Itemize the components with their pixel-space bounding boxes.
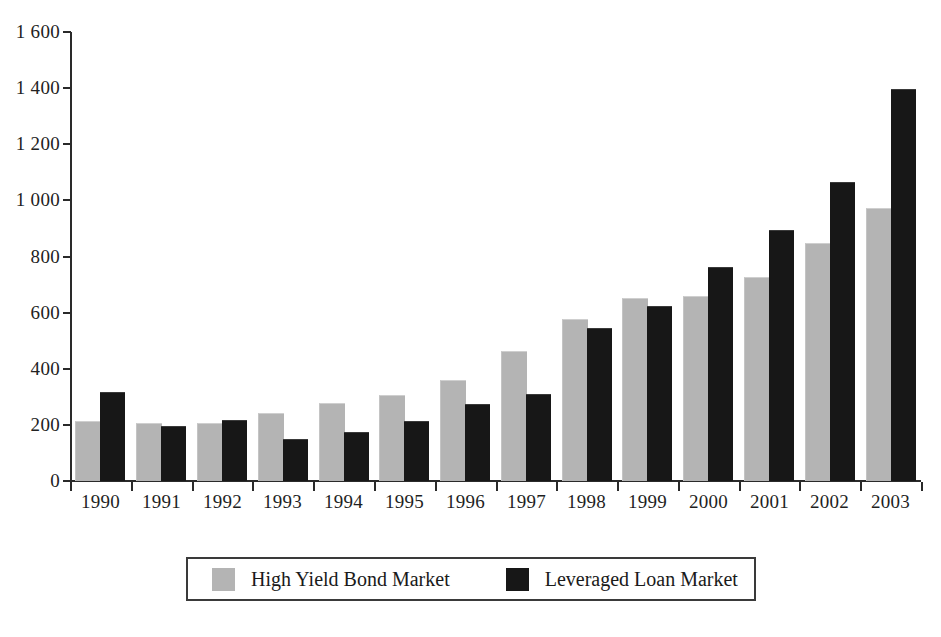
x-axis-tick [739, 482, 741, 491]
legend-label-leveraged-loan-market: Leveraged Loan Market [545, 569, 738, 589]
bar-1997-high-yield-bond-market [501, 351, 527, 481]
bar-1991-high-yield-bond-market [136, 423, 162, 481]
x-axis-tick-label-1990: 1990 [70, 492, 131, 512]
plot-area: 02004006008001 0001 2001 4001 600 199019… [0, 0, 941, 520]
x-axis-tick [192, 482, 194, 491]
bar-2003-high-yield-bond-market [866, 208, 892, 481]
bar-1999-leveraged-loan-market [647, 306, 672, 481]
x-axis-tick [252, 482, 254, 491]
bar-1999-high-yield-bond-market [622, 298, 648, 481]
bar-1990-leveraged-loan-market [100, 392, 125, 481]
bar-1995-high-yield-bond-market [379, 395, 405, 481]
x-axis-tick [799, 482, 801, 491]
x-axis-tick-label-1998: 1998 [556, 492, 617, 512]
bar-2003-leveraged-loan-market [891, 89, 916, 481]
x-axis-tick [496, 482, 498, 491]
bar-chart-figure: 02004006008001 0001 2001 4001 600 199019… [0, 0, 941, 637]
bar-1993-leveraged-loan-market [283, 439, 308, 481]
x-axis-tick [70, 482, 72, 491]
bar-1991-leveraged-loan-market [161, 426, 186, 481]
x-axis-tick-label-1994: 1994 [313, 492, 374, 512]
legend-swatch-black-icon [506, 568, 529, 591]
bar-1996-high-yield-bond-market [440, 380, 466, 481]
x-axis-tick-label-1997: 1997 [496, 492, 557, 512]
x-axis-tick [313, 482, 315, 491]
x-axis-tick-label-1995: 1995 [374, 492, 435, 512]
bar-2001-high-yield-bond-market [744, 277, 770, 481]
legend-label-high-yield-bond-market: High Yield Bond Market [251, 569, 450, 589]
x-axis-tick [921, 482, 923, 491]
bar-1998-leveraged-loan-market [587, 328, 612, 481]
bar-1993-high-yield-bond-market [258, 413, 284, 481]
bar-1994-leveraged-loan-market [344, 432, 369, 481]
bar-1992-leveraged-loan-market [222, 420, 247, 481]
bar-2000-high-yield-bond-market [683, 296, 709, 481]
figure-caption-clipped [6, 624, 476, 637]
x-axis-tick-label-1999: 1999 [617, 492, 678, 512]
x-axis-tick-label-1992: 1992 [192, 492, 253, 512]
x-axis-tick [131, 482, 133, 491]
x-axis-tick [617, 482, 619, 491]
x-axis-tick [678, 482, 680, 491]
bar-1990-high-yield-bond-market [75, 421, 101, 481]
x-axis-tick-label-1991: 1991 [131, 492, 192, 512]
bar-1997-leveraged-loan-market [526, 394, 551, 481]
bar-1994-high-yield-bond-market [319, 403, 345, 481]
bar-1996-leveraged-loan-market [465, 404, 490, 481]
bar-1998-high-yield-bond-market [562, 319, 588, 481]
bar-2002-leveraged-loan-market [830, 182, 855, 481]
bar-2002-high-yield-bond-market [805, 243, 831, 481]
legend-swatch-gray-icon [212, 568, 235, 591]
legend-item-high-yield-bond-market: High Yield Bond Market [212, 559, 450, 599]
bar-1992-high-yield-bond-market [197, 423, 223, 481]
legend-item-leveraged-loan-market: Leveraged Loan Market [506, 559, 738, 599]
bar-2000-leveraged-loan-market [708, 267, 733, 481]
x-axis-tick [556, 482, 558, 491]
bars-layer [0, 0, 941, 481]
x-axis-tick [435, 482, 437, 491]
x-axis-tick-label-2002: 2002 [799, 492, 860, 512]
x-axis-tick-label-2003: 2003 [860, 492, 921, 512]
x-axis-tick [374, 482, 376, 491]
bar-1995-leveraged-loan-market [404, 421, 429, 481]
x-axis-tick [860, 482, 862, 491]
chart-legend: High Yield Bond Market Leveraged Loan Ma… [186, 557, 756, 601]
x-axis-tick-label-2001: 2001 [739, 492, 800, 512]
bar-2001-leveraged-loan-market [769, 230, 794, 481]
x-axis-tick-label-2000: 2000 [678, 492, 739, 512]
x-axis-tick-label-1996: 1996 [435, 492, 496, 512]
x-axis-tick-label-1993: 1993 [252, 492, 313, 512]
